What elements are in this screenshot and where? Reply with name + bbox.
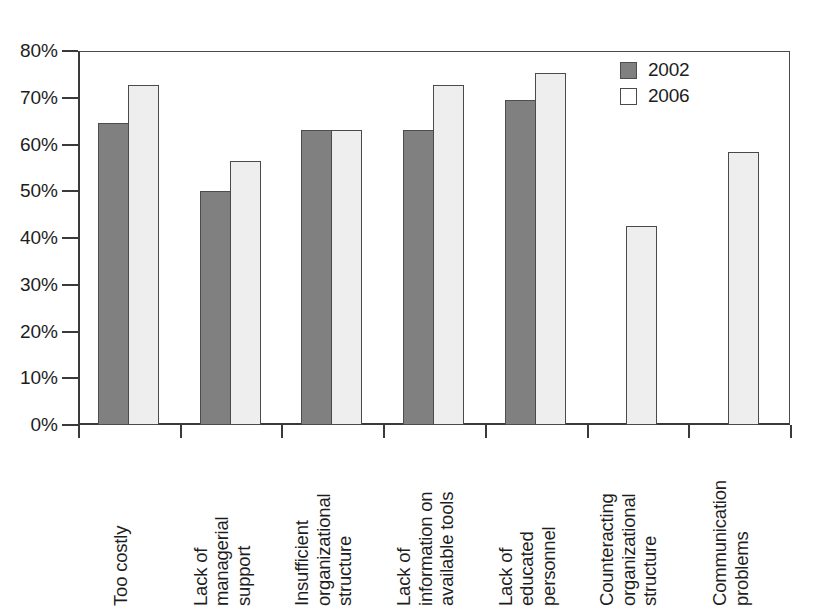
x-axis-category-label-line: structure bbox=[336, 436, 355, 606]
x-axis-tick bbox=[587, 425, 589, 438]
bar-2006 bbox=[230, 161, 261, 425]
x-axis-category-label-line: support bbox=[235, 436, 254, 606]
x-axis-category-label-line: personnel bbox=[540, 436, 559, 606]
x-axis-category-label-line: Too costly bbox=[112, 436, 131, 606]
x-axis-category-label-line: educated bbox=[518, 436, 537, 606]
y-axis-tick-label: 50% bbox=[0, 180, 58, 202]
y-axis-tick bbox=[62, 97, 78, 99]
x-axis-category-label-line: organizational bbox=[315, 436, 334, 606]
x-axis-category-label-line: problems bbox=[733, 436, 752, 606]
x-axis-category-label: Communicationproblems bbox=[711, 436, 755, 606]
x-axis-category-label: Insufficientorganizationalstructure bbox=[293, 436, 359, 606]
y-axis-tick-label: 10% bbox=[0, 367, 58, 389]
x-axis-tick bbox=[383, 425, 385, 438]
chart-legend: 20022006 bbox=[620, 57, 770, 109]
x-axis-category-label-line: Lack of bbox=[192, 436, 211, 606]
legend-swatch-icon bbox=[620, 62, 637, 79]
bar-2006 bbox=[128, 85, 159, 425]
y-axis-tick bbox=[62, 284, 78, 286]
y-axis-tick bbox=[62, 144, 78, 146]
x-axis-category-label-line: Lack of bbox=[497, 436, 516, 606]
x-axis-category-label-line: organizational bbox=[620, 436, 639, 606]
legend-item-2002: 2002 bbox=[620, 57, 770, 83]
bar-2002 bbox=[505, 100, 536, 425]
y-axis-tick-label: 20% bbox=[0, 321, 58, 343]
y-axis-tick-label: 0% bbox=[0, 414, 58, 436]
x-axis-category-label: Lack ofmanagerialsupport bbox=[192, 436, 258, 606]
y-axis-tick bbox=[62, 331, 78, 333]
y-axis-tick bbox=[62, 190, 78, 192]
x-axis-category-label-line: Counteracting bbox=[598, 436, 617, 606]
y-axis-tick bbox=[62, 237, 78, 239]
bar-2002 bbox=[403, 130, 434, 425]
x-axis-category-label: Too costly bbox=[112, 436, 134, 606]
bar-2006 bbox=[626, 226, 657, 425]
x-axis-category-label-line: Lack of bbox=[395, 436, 414, 606]
x-axis-tick bbox=[688, 425, 690, 438]
legend-item-2006: 2006 bbox=[620, 83, 770, 109]
x-axis-tick bbox=[180, 425, 182, 438]
bar-2006 bbox=[535, 73, 566, 425]
x-axis-category-label-line: available tools bbox=[438, 436, 457, 606]
y-axis-tick-label: 60% bbox=[0, 134, 58, 156]
x-axis-category-label: Lack ofinformation onavailable tools bbox=[395, 436, 461, 606]
y-axis-tick-label: 40% bbox=[0, 227, 58, 249]
bar-2006 bbox=[433, 85, 464, 425]
y-axis-tick bbox=[62, 377, 78, 379]
bar-2006 bbox=[728, 152, 759, 425]
x-axis-tick bbox=[281, 425, 283, 438]
bar-chart: 0%10%20%30%40%50%60%70%80% Too costlyLac… bbox=[0, 0, 817, 606]
x-axis-tick bbox=[485, 425, 487, 438]
x-axis-category-label-line: Insufficient bbox=[293, 436, 312, 606]
x-axis-tick bbox=[790, 425, 792, 438]
x-axis-category-label-line: information on bbox=[417, 436, 436, 606]
bar-2006 bbox=[331, 130, 362, 425]
x-axis-category-label: Counteractingorganizationalstructure bbox=[598, 436, 664, 606]
y-axis-tick-label: 80% bbox=[0, 40, 58, 62]
x-axis-category-label-line: managerial bbox=[213, 436, 232, 606]
bar-2002 bbox=[301, 130, 332, 425]
bar-2002 bbox=[98, 123, 129, 425]
y-axis-tick bbox=[62, 424, 78, 426]
legend-label: 2002 bbox=[648, 59, 689, 81]
x-axis-tick bbox=[78, 425, 80, 438]
bar-2002 bbox=[200, 191, 231, 425]
legend-label: 2006 bbox=[648, 85, 689, 107]
y-axis-tick-label: 70% bbox=[0, 87, 58, 109]
legend-swatch-icon bbox=[620, 88, 637, 105]
x-axis-category-label: Lack ofeducatedpersonnel bbox=[497, 436, 563, 606]
y-axis-tick-label: 30% bbox=[0, 274, 58, 296]
x-axis-category-label-line: structure bbox=[641, 436, 660, 606]
x-axis-category-label-line: Communication bbox=[711, 436, 730, 606]
y-axis-tick bbox=[62, 50, 78, 52]
